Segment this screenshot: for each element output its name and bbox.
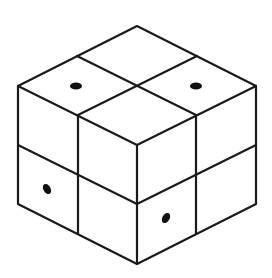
isometric-cube-figure bbox=[0, 0, 272, 278]
dot-top-left bbox=[70, 82, 82, 89]
dot-right-bottom-left bbox=[160, 211, 172, 224]
cube-diagram bbox=[0, 0, 272, 278]
dot-top-right bbox=[190, 82, 202, 89]
top-face bbox=[18, 56, 256, 145]
right-face bbox=[137, 115, 256, 234]
face-dots bbox=[41, 82, 202, 224]
dot-left-bottom-left bbox=[41, 182, 53, 195]
